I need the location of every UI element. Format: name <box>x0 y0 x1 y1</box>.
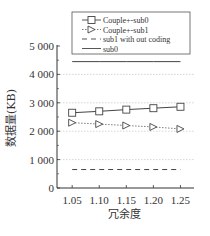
y-tick-label: 3 000 <box>29 97 54 109</box>
square-marker <box>177 103 184 110</box>
legend: Couple+-sub0Couple+-sub1sub1 with out co… <box>72 12 190 54</box>
y-tick-label: 2 000 <box>29 125 54 137</box>
square-marker <box>150 105 157 112</box>
x-tick-label: 1.15 <box>117 194 137 206</box>
x-tick-label: 1.25 <box>171 194 191 206</box>
triangle-marker <box>96 121 103 128</box>
y-tick-label: 1 000 <box>29 154 54 166</box>
square-marker <box>69 109 76 116</box>
chart: 01 0002 0003 0004 0005 000 1.051.101.151… <box>0 0 210 236</box>
triangle-marker <box>123 122 130 129</box>
legend-entry: Couple+-sub0 <box>82 16 148 25</box>
y-axis-title: 数据量(KB) <box>4 89 18 147</box>
x-tick-label: 1.05 <box>63 194 83 206</box>
y-tick-label: 5 000 <box>29 40 54 52</box>
triangle-marker <box>150 123 157 130</box>
y-tick-label: 4 000 <box>29 68 54 80</box>
gridlines <box>57 74 194 159</box>
x-tick-label: 1.10 <box>90 194 110 206</box>
series <box>69 62 184 170</box>
legend-label: Couple+-sub0 <box>103 16 148 25</box>
x-axis-title: 冗余度 <box>108 207 141 221</box>
square-marker <box>88 17 95 24</box>
triangle-marker <box>69 119 76 126</box>
x-tick-label: 1.20 <box>144 194 164 206</box>
legend-label: sub0 <box>103 45 118 54</box>
y-ticks: 01 0002 0003 0004 0005 000 <box>29 40 60 194</box>
axes <box>57 45 194 188</box>
y-tick-label: 0 <box>49 182 55 194</box>
series-couple-sub1 <box>69 119 184 132</box>
legend-label: sub1 with out coding <box>103 35 170 44</box>
series-couple-sub0 <box>69 103 184 116</box>
square-marker <box>96 108 103 115</box>
legend-label: Couple+-sub1 <box>103 26 148 35</box>
square-marker <box>123 106 130 113</box>
